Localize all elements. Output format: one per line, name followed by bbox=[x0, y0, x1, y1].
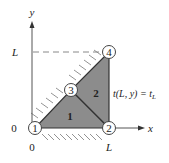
element-1-label: 1 bbox=[67, 110, 73, 122]
element-2-label: 2 bbox=[93, 87, 99, 99]
node-1: 1 bbox=[29, 122, 42, 135]
x-axis-label: x bbox=[147, 122, 153, 134]
svg-text:4: 4 bbox=[106, 46, 112, 58]
x-tick-0: 0 bbox=[29, 141, 35, 153]
svg-text:3: 3 bbox=[68, 84, 74, 96]
bottom-hatching bbox=[42, 134, 102, 140]
y-tick-L: L bbox=[11, 46, 18, 58]
node-3: 3 bbox=[65, 84, 78, 97]
y-axis-label: y bbox=[29, 6, 35, 18]
x-tick-L: L bbox=[105, 141, 112, 153]
x-axis-arrow-icon bbox=[138, 126, 145, 131]
boundary-condition-label: t(L, y) = tL bbox=[113, 88, 156, 101]
svg-text:2: 2 bbox=[106, 122, 112, 134]
y-tick-0: 0 bbox=[11, 122, 17, 134]
node-4: 4 bbox=[103, 46, 116, 59]
svg-text:1: 1 bbox=[32, 122, 38, 134]
diagram-svg: 1 2 3 4 1 2 y x L 0 0 L t(L, y) = tL bbox=[0, 0, 169, 163]
fem-diagram: 1 2 3 4 1 2 y x L 0 0 L t(L, y) = tL bbox=[0, 0, 169, 163]
node-2: 2 bbox=[103, 122, 116, 135]
y-axis-arrow-icon bbox=[30, 21, 35, 28]
